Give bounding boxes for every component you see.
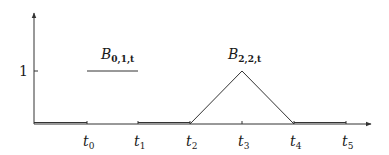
knot-label-t3: t3 (238, 133, 250, 151)
knot-labels: t0 t1 t2 t3 t4 t5 (83, 133, 354, 151)
curve-label-b-2-2: B2,2,t (227, 46, 262, 65)
knot-label-t0: t0 (83, 133, 95, 151)
bspline-diagram: 1 t0 t1 t2 t3 t4 t5 B0,1,t B2,2,t (0, 0, 389, 155)
knot-label-t5: t5 (342, 133, 354, 151)
knot-label-t1: t1 (134, 133, 145, 151)
curve-b-2-2 (190, 71, 346, 124)
knot-label-t4: t4 (290, 133, 302, 151)
knot-label-t2: t2 (186, 133, 197, 151)
curve-label-b-0-1: B0,1,t (100, 46, 135, 65)
axes: 1 (19, 13, 371, 124)
curve-b-0-1 (34, 71, 190, 123)
y-tick-label: 1 (19, 63, 28, 79)
